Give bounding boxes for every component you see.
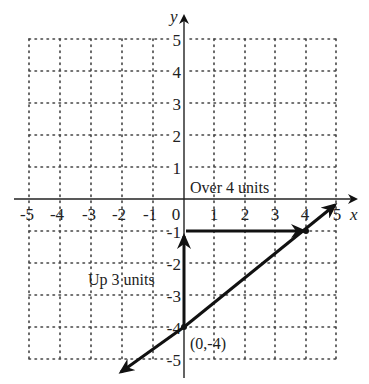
svg-text:-5: -5: [167, 351, 181, 370]
svg-text:-3: -3: [167, 287, 181, 306]
svg-text:-3: -3: [82, 205, 96, 224]
x-tick-labels: -5 -4 -3 -2 -1 0 1 2 3 4 5: [20, 205, 341, 224]
svg-text:4: 4: [173, 63, 182, 82]
x-axis-label: x: [349, 205, 358, 224]
svg-text:0: 0: [172, 205, 181, 224]
svg-text:5: 5: [333, 205, 342, 224]
svg-text:2: 2: [173, 127, 182, 146]
graph-line: [184, 205, 335, 327]
svg-text:3: 3: [271, 205, 280, 224]
y-tick-labels: 1 2 3 4 5 -1 -2 -3 -4 -5: [167, 31, 182, 370]
up-3-units-label: Up 3 units: [88, 271, 155, 289]
svg-text:-4: -4: [50, 205, 65, 224]
svg-text:2: 2: [241, 205, 250, 224]
svg-text:4: 4: [301, 205, 310, 224]
svg-text:-1: -1: [167, 223, 181, 242]
svg-text:-2: -2: [112, 205, 126, 224]
svg-text:-5: -5: [20, 205, 34, 224]
point-0-neg4: [181, 324, 187, 330]
coordinate-plane: x y -5 -4 -3 -2 -1 0 1 2 3 4 5 1 2 3 4 5…: [0, 0, 369, 384]
point-4-neg1: [303, 228, 309, 234]
svg-text:-2: -2: [167, 255, 181, 274]
over-4-units-label: Over 4 units: [190, 179, 269, 196]
point-label: (0,-4): [190, 335, 226, 353]
y-axis-label: y: [168, 7, 178, 26]
svg-text:1: 1: [173, 159, 182, 178]
svg-text:-1: -1: [143, 205, 157, 224]
svg-text:5: 5: [173, 31, 182, 50]
svg-text:3: 3: [173, 95, 182, 114]
svg-text:1: 1: [210, 205, 219, 224]
